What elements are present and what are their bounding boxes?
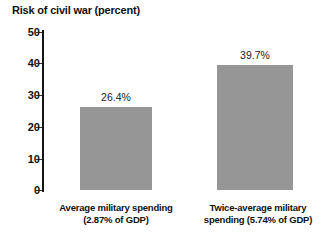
category-label-0-line-1: Average military spending: [44, 202, 188, 214]
category-label-1: Twice-average military spending (5.74% o…: [182, 202, 334, 226]
bar-twice-average-military-spending: [217, 65, 293, 190]
y-tick-label-50: 50: [28, 27, 40, 38]
y-tick-label-40: 40: [28, 58, 40, 69]
y-tick-label-20: 20: [28, 122, 40, 133]
category-label-0-line-2: (2.87% of GDP): [44, 214, 188, 226]
y-tick-label-30: 30: [28, 90, 40, 101]
plot-area: 50 40 30 20 10 0 26.4% 39.7%: [0, 0, 336, 200]
bar-chart: Risk of civil war (percent) 50 40 30 20 …: [0, 0, 336, 241]
category-label-1-line-2: spending (5.74% of GDP): [182, 214, 334, 226]
bar-value-label-1: 39.7%: [217, 49, 293, 61]
category-label-1-line-1: Twice-average military: [182, 202, 334, 214]
category-label-0: Average military spending (2.87% of GDP): [44, 202, 188, 226]
y-axis-spine: [42, 30, 44, 192]
y-tick-label-0: 0: [34, 185, 40, 196]
bar-average-military-spending: [80, 107, 152, 190]
y-tick-label-10: 10: [28, 154, 40, 165]
bar-value-label-0: 26.4%: [80, 91, 152, 103]
